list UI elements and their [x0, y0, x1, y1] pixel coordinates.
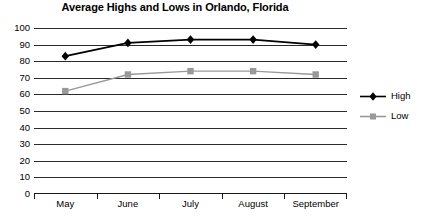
data-point-low[interactable]: [125, 71, 131, 77]
y-axis-tick-label: 100: [14, 23, 30, 33]
data-point-high[interactable]: [62, 52, 69, 61]
legend-label-high: High: [391, 90, 411, 101]
y-axis-tick-labels: 0102030405060708090100: [0, 28, 30, 194]
x-axis-tick-label: July: [182, 199, 199, 209]
data-point-high[interactable]: [249, 35, 256, 44]
x-axis-tick-label: August: [238, 199, 268, 209]
data-point-low[interactable]: [250, 68, 256, 74]
y-axis-tick-label: 10: [19, 173, 30, 183]
chart-title: Average Highs and Lows in Orlando, Flori…: [0, 1, 350, 13]
y-axis-tick-label: 50: [19, 106, 30, 116]
x-axis-tick-label: June: [118, 199, 139, 209]
data-point-high[interactable]: [312, 40, 319, 49]
legend-item-high[interactable]: High: [360, 86, 430, 106]
x-axis-tick-label: May: [56, 199, 74, 209]
y-axis-tick-label: 20: [19, 156, 30, 166]
y-axis-tick-label: 40: [19, 123, 30, 133]
plot-area: [34, 28, 347, 194]
y-axis-tick-label: 30: [19, 139, 30, 149]
data-point-low[interactable]: [62, 88, 68, 94]
y-axis-tick-label: 70: [19, 73, 30, 83]
legend-label-low: Low: [391, 110, 408, 121]
chart-legend: High Low: [360, 86, 430, 126]
data-point-low[interactable]: [313, 71, 319, 77]
y-axis-tick-label: 90: [19, 40, 30, 50]
y-axis-tick-label: 80: [19, 56, 30, 66]
x-axis-tick-label: September: [292, 199, 338, 209]
data-point-low[interactable]: [187, 68, 193, 74]
data-point-high[interactable]: [124, 39, 131, 48]
data-point-high[interactable]: [187, 35, 194, 44]
legend-marker-diamond-icon: [360, 91, 386, 102]
x-axis-tick-labels: MayJuneJulyAugustSeptember: [34, 197, 347, 213]
chart-container: Average Highs and Lows in Orlando, Flori…: [0, 0, 433, 224]
series-layer: [34, 28, 347, 194]
y-axis-tick-label: 0: [25, 189, 30, 199]
y-axis-tick-label: 60: [19, 90, 30, 100]
legend-item-low[interactable]: Low: [360, 106, 430, 126]
legend-marker-square-icon: [360, 111, 386, 122]
